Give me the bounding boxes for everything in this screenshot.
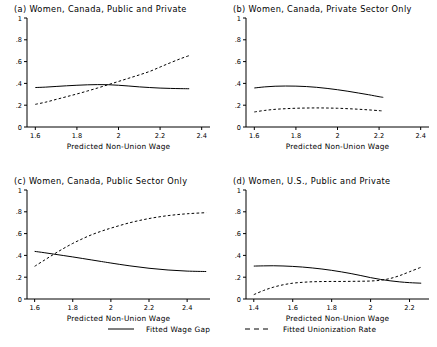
series-line-wage-gap	[254, 266, 421, 283]
x-tick-label: 2	[109, 304, 113, 312]
y-tick-label: .2	[16, 274, 22, 282]
series-line-unionization-rate	[35, 56, 189, 105]
x-tick-label: 2.4	[196, 132, 207, 140]
y-tick-label: .4	[235, 252, 241, 260]
x-tick-label: 2.4	[182, 304, 193, 312]
legend-entry-wage-gap: Fitted Wage Gap	[108, 322, 210, 336]
x-tick-label: 1.6	[287, 304, 298, 312]
series-line-wage-gap	[35, 251, 207, 271]
x-tick-label: 2.4	[415, 132, 426, 140]
y-tick-label: .2	[235, 274, 241, 282]
y-tick-label: .2	[235, 102, 241, 110]
chart-panel-c: (c) Women, Canada, Public Sector Only 0.…	[0, 172, 218, 344]
x-tick-label: 1.6	[249, 132, 260, 140]
x-tick-label: 2.2	[374, 132, 385, 140]
x-tick-label: 1.8	[72, 132, 83, 140]
series-line-wage-gap	[35, 85, 189, 89]
figure-container: (a) Women, Canada, Public and Private 0.…	[0, 0, 437, 347]
x-tick-label: 2	[116, 132, 120, 140]
x-tick-label: 2.2	[155, 132, 166, 140]
x-tick-label: 1.4	[249, 304, 260, 312]
x-tick-label: 1.6	[29, 304, 40, 312]
y-tick-label: .2	[16, 102, 22, 110]
y-tick-label: 1	[237, 187, 241, 195]
y-tick-label: .8	[16, 36, 22, 44]
x-tick-label: 1.6	[30, 132, 41, 140]
legend-label: Fitted Wage Gap	[146, 325, 210, 334]
y-tick-label: .6	[16, 58, 22, 66]
dashed-line-icon	[245, 324, 271, 334]
x-tick-label: 2	[368, 304, 372, 312]
legend-label: Fitted Unionization Rate	[283, 325, 376, 334]
y-tick-label: .4	[16, 80, 22, 88]
legend-entry-unionization-rate: Fitted Unionization Rate	[245, 322, 376, 336]
y-tick-label: .8	[235, 36, 241, 44]
x-tick-label: 1.8	[326, 304, 337, 312]
x-tick-label: 1.8	[68, 304, 79, 312]
y-tick-label: .4	[235, 80, 241, 88]
chart-panel-d: (d) Women, U.S., Public and Private 0.2.…	[219, 172, 437, 344]
y-tick-label: 0	[237, 296, 241, 304]
x-axis-label: Predicted Non-Union Wage	[67, 142, 171, 151]
y-tick-label: 0	[237, 124, 241, 132]
chart-panel-a: (a) Women, Canada, Public and Private 0.…	[0, 0, 218, 172]
solid-line-icon	[108, 324, 134, 334]
series-line-unionization-rate	[254, 108, 383, 112]
x-axis-label: Predicted Non-Union Wage	[286, 142, 390, 151]
chart-panel-b: (b) Women, Canada, Private Sector Only 0…	[219, 0, 437, 172]
x-tick-label: 2.2	[404, 304, 415, 312]
x-tick-label: 2	[335, 132, 339, 140]
x-tick-label: 1.8	[291, 132, 302, 140]
series-line-wage-gap	[254, 86, 383, 97]
y-tick-label: 1	[18, 187, 22, 195]
figure-legend: Fitted Wage Gap Fitted Unionization Rate	[0, 322, 437, 344]
series-line-unionization-rate	[35, 213, 207, 267]
x-tick-label: 2.2	[144, 304, 155, 312]
y-tick-label: 0	[18, 296, 22, 304]
y-tick-label: .6	[235, 230, 241, 238]
y-tick-label: 0	[18, 124, 22, 132]
y-tick-label: .8	[235, 208, 241, 216]
y-tick-label: .6	[16, 230, 22, 238]
y-tick-label: 1	[237, 15, 241, 23]
y-tick-label: .4	[16, 252, 22, 260]
y-tick-label: .8	[16, 208, 22, 216]
y-tick-label: 1	[18, 15, 22, 23]
y-tick-label: .6	[235, 58, 241, 66]
